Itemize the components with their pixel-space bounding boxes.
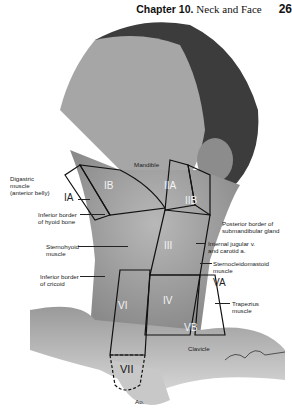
leader-line: [200, 263, 212, 264]
label-hyoid: Inferior borderof hyoid bone: [38, 211, 77, 225]
label-sternohyoid: Sternohyoidmuscle: [46, 243, 79, 257]
leader-line: [215, 303, 230, 304]
zone-vb: VB: [184, 322, 197, 333]
leader-line: [80, 276, 105, 277]
zone-iii: III: [164, 240, 172, 251]
zone-iib: IIB: [185, 195, 197, 206]
zone-iv: IV: [163, 295, 172, 306]
label-va: VA: [213, 279, 226, 286]
zone-vii: VII: [120, 363, 133, 375]
zone-vi: VI: [118, 300, 127, 311]
label-trapezius: Trapeziusmuscle: [232, 300, 259, 314]
leader-line: [80, 214, 105, 215]
leader-line: [78, 199, 90, 200]
label-jugular: Internal jugular v.and carotid a.: [208, 240, 255, 254]
label-mandible: Mandible: [134, 161, 159, 168]
label-cricoid: Inferior borderof cricoid: [40, 273, 79, 287]
neck-anatomy-illustration: [0, 0, 292, 415]
label-scm: Sternocleidomastoidmuscle: [213, 260, 269, 274]
label-submandibular: Posterior border ofsubmandibular gland: [222, 220, 279, 234]
leader-line: [196, 243, 206, 244]
label-clavicle: Clavicle: [188, 345, 210, 352]
label-ia: IA: [64, 194, 73, 201]
zone-iia: IIA: [164, 180, 176, 191]
label-aorta: Ao.: [135, 398, 144, 405]
leader-line: [78, 246, 128, 247]
label-digastric: Digastricmuscle(anterior belly): [10, 175, 50, 196]
zone-ib: IB: [104, 180, 113, 191]
